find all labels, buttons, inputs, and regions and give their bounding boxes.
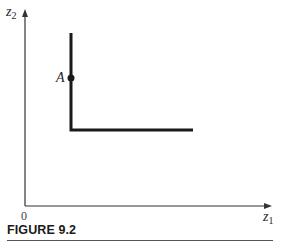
y-axis-label: z2: [6, 5, 16, 21]
figure-plot: [0, 0, 282, 252]
l-shaped-curve: [71, 33, 193, 130]
figure-caption: FIGURE 9.2: [7, 223, 76, 237]
caption-divider: [7, 240, 273, 241]
y-axis-arrow-icon: [22, 9, 28, 17]
origin-label: 0: [21, 210, 27, 222]
point-a-marker: [68, 75, 75, 82]
point-a-label: A: [56, 71, 65, 85]
x-axis-label: z1: [263, 210, 273, 226]
